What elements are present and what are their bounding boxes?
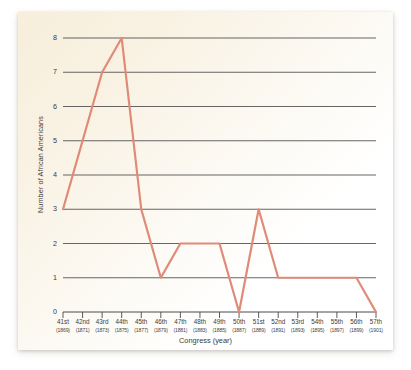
congress-ordinal: 53rd bbox=[291, 318, 304, 325]
x-axis-tick-labels: 41st(1869)42nd(1871)43rd(1873)44th(1875)… bbox=[18, 312, 393, 336]
y-tick-label-7: 7 bbox=[43, 67, 57, 76]
gridlines-group bbox=[63, 38, 376, 312]
line-chart-svg bbox=[18, 12, 393, 350]
congress-ordinal: 44th bbox=[116, 318, 128, 325]
congress-ordinal: 51st bbox=[253, 318, 265, 325]
congress-ordinal: 57th bbox=[370, 318, 382, 325]
congress-ordinal: 50th bbox=[233, 318, 245, 325]
congress-ordinal: 56th bbox=[350, 318, 362, 325]
congress-ordinal: 41st bbox=[57, 318, 69, 325]
congress-ordinal: 54th bbox=[311, 318, 323, 325]
congress-ordinal: 52nd bbox=[271, 318, 285, 325]
y-tick-label-1: 1 bbox=[43, 273, 57, 282]
congress-ordinal: 47th bbox=[174, 318, 186, 325]
y-tick-label-6: 6 bbox=[43, 102, 57, 111]
congress-ordinal: 43rd bbox=[96, 318, 109, 325]
y-tick-label-3: 3 bbox=[43, 204, 57, 213]
congress-ordinal: 46th bbox=[155, 318, 167, 325]
congress-ordinal: 42nd bbox=[76, 318, 90, 325]
y-tick-label-8: 8 bbox=[43, 33, 57, 42]
chart-screenshot: Number of African Americans 012345678 41… bbox=[0, 0, 411, 370]
y-tick-label-4: 4 bbox=[43, 170, 57, 179]
congress-year: (1901) bbox=[365, 326, 387, 334]
x-axis-label: Congress (year) bbox=[18, 336, 393, 345]
x-tick-label-57th: 57th(1901) bbox=[365, 318, 387, 334]
y-tick-label-5: 5 bbox=[43, 136, 57, 145]
congress-ordinal: 48th bbox=[194, 318, 206, 325]
congress-ordinal: 55th bbox=[331, 318, 343, 325]
congress-ordinal: 45th bbox=[135, 318, 147, 325]
y-tick-label-2: 2 bbox=[43, 239, 57, 248]
congress-ordinal: 49th bbox=[213, 318, 225, 325]
chart-card: Number of African Americans 012345678 41… bbox=[18, 12, 393, 350]
plot-area: Number of African Americans 012345678 41… bbox=[18, 12, 393, 350]
